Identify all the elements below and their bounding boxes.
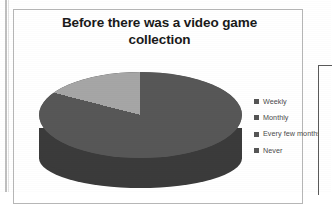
chart-title-line-1: Before there was a video game [32, 15, 287, 32]
legend-item-every-few-months[interactable]: Every few months [254, 130, 320, 137]
pie-top-surface[interactable] [39, 72, 242, 158]
legend-item-weekly[interactable]: Weekly [254, 98, 320, 105]
page-edge-line-secondary [8, 0, 9, 192]
chart-frame[interactable]: Before there was a video game collection… [13, 9, 303, 204]
legend-item-never[interactable]: Never [254, 147, 320, 154]
legend-label-weekly: Weekly [263, 98, 287, 105]
pie-slices[interactable] [39, 72, 242, 158]
pie-chart-plot-area[interactable] [14, 58, 254, 198]
legend-swatch-icon-never [254, 148, 259, 153]
chart-title-line-2: collection [32, 32, 287, 49]
legend-label-every-few-months: Every few months [263, 130, 321, 137]
legend-swatch-icon-every-few-months [254, 132, 259, 137]
chart-title: Before there was a video game collection [32, 15, 287, 49]
legend-label-monthly: Monthly [263, 114, 289, 121]
adjacent-page-object [318, 65, 332, 195]
legend-swatch-icon-weekly [254, 99, 259, 104]
legend-item-monthly[interactable]: Monthly [254, 114, 320, 121]
chart-legend: Weekly Monthly Every few months Never [254, 98, 320, 163]
legend-label-never: Never [263, 147, 282, 154]
legend-swatch-icon-monthly [254, 115, 259, 120]
page-edge-line [5, 0, 7, 192]
